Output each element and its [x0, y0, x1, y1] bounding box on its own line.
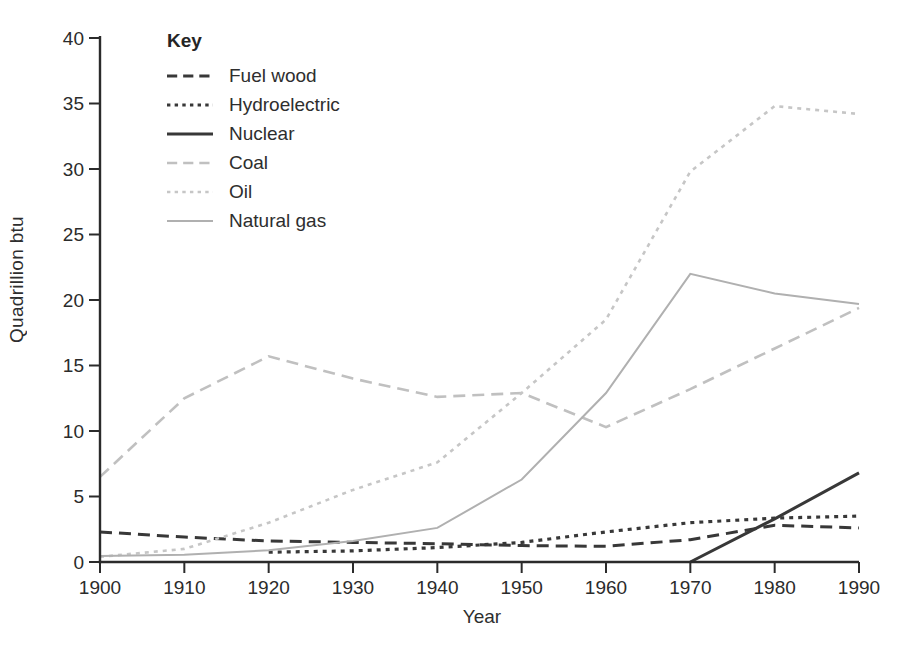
- legend-label: Fuel wood: [229, 65, 317, 87]
- energy-consumption-line-chart: 0510152025303540190019101920193019401950…: [0, 0, 909, 646]
- legend-item-coal: Coal: [167, 148, 340, 177]
- legend-label: Nuclear: [229, 123, 294, 145]
- legend-item-natural-gas: Natural gas: [167, 206, 340, 235]
- chart-canvas: 0510152025303540190019101920193019401950…: [0, 0, 909, 646]
- legend-line-sample: [167, 159, 213, 167]
- x-axis-title: Year: [432, 606, 532, 628]
- legend-items: Fuel woodHydroelectricNuclearCoalOilNatu…: [167, 61, 340, 235]
- y-tick-label: 35: [63, 93, 84, 114]
- x-tick-label: 1920: [248, 577, 290, 598]
- legend-item-hydroelectric: Hydroelectric: [167, 90, 340, 119]
- series-line-natural-gas: [100, 274, 859, 556]
- y-tick-label: 20: [63, 290, 84, 311]
- y-tick-label: 15: [63, 355, 84, 376]
- x-tick-label: 1970: [669, 577, 711, 598]
- y-tick-label: 40: [63, 28, 84, 49]
- series-line-coal: [100, 308, 859, 477]
- y-tick-label: 30: [63, 159, 84, 180]
- y-tick-label: 25: [63, 224, 84, 245]
- series-line-nuclear: [690, 473, 859, 562]
- chart-legend: Key Fuel woodHydroelectricNuclearCoalOil…: [167, 30, 340, 235]
- legend-item-oil: Oil: [167, 177, 340, 206]
- x-tick-label: 1950: [501, 577, 543, 598]
- series-line-fuel-wood: [100, 525, 859, 546]
- y-axis-title: Quadrillion btu: [6, 216, 28, 343]
- legend-label: Coal: [229, 152, 268, 174]
- legend-label: Natural gas: [229, 210, 326, 232]
- legend-item-nuclear: Nuclear: [167, 119, 340, 148]
- x-tick-label: 1910: [163, 577, 205, 598]
- legend-line-sample: [167, 101, 213, 109]
- y-tick-label: 5: [73, 486, 84, 507]
- x-tick-label: 1960: [585, 577, 627, 598]
- x-tick-label: 1980: [754, 577, 796, 598]
- legend-title: Key: [167, 30, 340, 52]
- y-tick-label: 0: [73, 552, 84, 573]
- x-tick-label: 1930: [332, 577, 374, 598]
- legend-line-sample: [167, 188, 213, 196]
- legend-label: Hydroelectric: [229, 94, 340, 116]
- legend-item-fuel-wood: Fuel wood: [167, 61, 340, 90]
- x-tick-label: 1990: [838, 577, 880, 598]
- x-tick-label: 1900: [79, 577, 121, 598]
- legend-line-sample: [167, 130, 213, 138]
- legend-line-sample: [167, 217, 213, 225]
- x-tick-label: 1940: [416, 577, 458, 598]
- legend-label: Oil: [229, 181, 252, 203]
- y-tick-label: 10: [63, 421, 84, 442]
- legend-line-sample: [167, 72, 213, 80]
